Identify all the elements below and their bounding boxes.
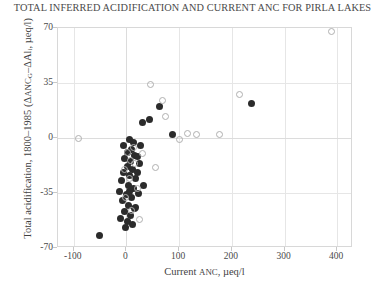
x-tick-mark-100 <box>178 247 179 251</box>
x-tick-mark-300 <box>284 247 285 251</box>
x-axis-ticks: -1000100200300400 <box>57 251 352 265</box>
data-point-filled <box>146 116 153 123</box>
data-point-filled <box>118 177 125 184</box>
data-point-open <box>130 144 137 151</box>
data-point-open <box>75 135 82 142</box>
y-axis-subscript-g: G <box>26 73 34 78</box>
y-tick-label-35: 35 <box>44 77 54 87</box>
data-point-filled <box>117 215 124 222</box>
data-point-open <box>152 164 159 171</box>
data-point-open <box>193 131 200 138</box>
data-point-filled <box>137 142 144 149</box>
gridline-x-400 <box>337 28 338 246</box>
chart-title: TOTAL INFERRED ACIDIFICATION AND CURRENT… <box>0 2 385 13</box>
x-tick-mark-200 <box>231 247 232 251</box>
chart-page: TOTAL INFERRED ACIDIFICATION AND CURRENT… <box>0 0 385 289</box>
x-axis-title: Current ANC, µeq/l <box>57 266 352 277</box>
data-point-filled <box>156 103 163 110</box>
gridline-x-300 <box>285 28 286 246</box>
data-point-filled <box>128 194 135 201</box>
data-point-filled <box>248 100 255 107</box>
y-tick-mark--35 <box>53 192 57 193</box>
data-point-open <box>184 130 191 137</box>
data-point-open <box>126 175 133 182</box>
plot-area <box>57 27 352 247</box>
y-tick-label-70: 70 <box>44 22 54 32</box>
data-point-open <box>128 207 135 214</box>
y-tick-mark-70 <box>53 27 57 28</box>
data-point-open <box>236 91 243 98</box>
x-tick-label-400: 400 <box>329 251 343 261</box>
data-point-open <box>134 185 141 192</box>
data-point-filled <box>139 119 146 126</box>
x-tick-label-0: 0 <box>123 251 128 261</box>
data-point-open <box>122 194 129 201</box>
data-point-open <box>176 136 183 143</box>
y-tick-mark--70 <box>53 247 57 248</box>
x-tick-label-100: 100 <box>171 251 185 261</box>
x-tick-label-200: 200 <box>224 251 238 261</box>
data-point-open <box>136 216 143 223</box>
data-point-filled <box>96 232 103 239</box>
y-axis-subscript-i: i <box>26 49 34 51</box>
data-point-open <box>328 28 335 35</box>
y-axis-title: Total acidification, 1800–1985 (ΔANCG–ΔA… <box>22 8 35 248</box>
data-point-filled <box>122 224 129 231</box>
gridline-x-200 <box>232 28 233 246</box>
data-point-filled <box>129 221 136 228</box>
x-tick-label-300: 300 <box>276 251 290 261</box>
gridline-y-35 <box>58 83 351 84</box>
data-point-open <box>159 97 166 104</box>
data-point-open <box>139 150 146 157</box>
y-tick-label--70: -70 <box>40 242 53 252</box>
x-axis-title-smallcaps: ANC <box>199 267 218 277</box>
data-point-open <box>162 113 169 120</box>
data-point-open <box>121 166 128 173</box>
data-point-open <box>147 81 154 88</box>
data-point-filled <box>132 175 139 182</box>
data-point-filled <box>134 169 141 176</box>
y-tick-label--35: -35 <box>40 187 53 197</box>
y-tick-mark-0 <box>53 137 57 138</box>
data-point-filled <box>116 188 123 195</box>
x-tick-label--100: -100 <box>64 251 81 261</box>
gridline-y-0 <box>58 138 351 139</box>
y-tick-mark-35 <box>53 82 57 83</box>
x-tick-mark-0 <box>125 247 126 251</box>
y-axis-title-smallcaps: ANC <box>23 78 33 97</box>
data-point-filled <box>140 182 147 189</box>
x-tick-mark--100 <box>73 247 74 251</box>
x-tick-mark-400 <box>336 247 337 251</box>
gridline-y--35 <box>58 193 351 194</box>
